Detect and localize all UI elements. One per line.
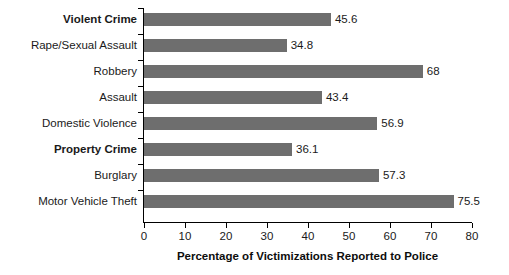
bar: [144, 195, 454, 208]
bar-value-label: 45.6: [335, 13, 357, 26]
category-label: Violent Crime: [0, 13, 137, 26]
bar: [144, 65, 423, 78]
x-axis-tick: [431, 223, 432, 228]
bar: [144, 117, 377, 130]
x-axis-title: Percentage of Victimizations Reported to…: [143, 249, 472, 263]
x-axis-tick: [349, 223, 350, 228]
x-axis-tick-label: 0: [129, 230, 159, 243]
x-axis-tick-label: 80: [457, 230, 487, 243]
bar-value-label: 43.4: [326, 91, 348, 104]
bar-value-label: 57.3: [383, 169, 405, 182]
bar: [144, 91, 322, 104]
bar-value-label: 75.5: [458, 195, 480, 208]
x-axis-tick: [144, 223, 145, 228]
y-axis-tick: [138, 112, 143, 113]
x-axis-tick: [226, 223, 227, 228]
category-label: Motor Vehicle Theft: [0, 195, 137, 208]
category-label: Rape/Sexual Assault: [0, 39, 137, 52]
bar-chart: Violent Crime45.6Rape/Sexual Assault34.8…: [0, 0, 509, 275]
category-label: Burglary: [0, 169, 137, 182]
x-axis-tick-label: 50: [334, 230, 364, 243]
x-axis-tick: [185, 223, 186, 228]
y-axis-tick: [138, 86, 143, 87]
x-axis-tick-label: 40: [293, 230, 323, 243]
x-axis-tick: [308, 223, 309, 228]
y-axis-tick: [138, 34, 143, 35]
category-label: Robbery: [0, 65, 137, 78]
y-axis-tick: [138, 60, 143, 61]
category-label: Domestic Violence: [0, 117, 137, 130]
y-axis-tick: [138, 164, 143, 165]
y-axis-tick: [138, 138, 143, 139]
x-axis-tick-label: 70: [416, 230, 446, 243]
category-label: Assault: [0, 91, 137, 104]
x-axis-tick: [472, 223, 473, 228]
y-axis-tick: [138, 190, 143, 191]
x-axis-tick-label: 60: [375, 230, 405, 243]
x-axis-tick-label: 10: [170, 230, 200, 243]
bar-value-label: 36.1: [296, 143, 318, 156]
x-axis-tick: [390, 223, 391, 228]
bar: [144, 169, 379, 182]
bar: [144, 143, 292, 156]
category-label: Property Crime: [0, 143, 137, 156]
x-axis-tick-label: 20: [211, 230, 241, 243]
bar: [144, 13, 331, 26]
y-axis-tick: [138, 8, 143, 9]
bar-value-label: 34.8: [291, 39, 313, 52]
bar-value-label: 56.9: [381, 117, 403, 130]
bar-value-label: 68: [427, 65, 440, 78]
bar: [144, 39, 287, 52]
x-axis-tick: [267, 223, 268, 228]
x-axis-tick-label: 30: [252, 230, 282, 243]
